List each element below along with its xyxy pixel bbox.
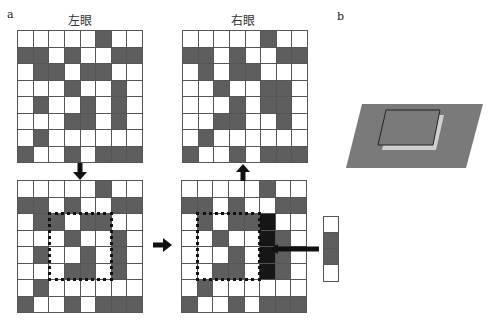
grid-cell [127,147,143,164]
grid-cell [198,214,214,231]
grid-cell [112,114,128,131]
grid-cell [34,214,50,231]
grid-cell [246,130,262,147]
grid-cell [182,198,198,215]
grid-cell [199,130,215,147]
grid-cell [261,147,277,164]
grid-cell [96,231,112,248]
grid-cell [198,247,214,264]
grid-cell [34,147,50,164]
grid-cell [213,247,229,264]
grid-cell [112,231,128,248]
grid-cell [199,114,215,131]
grid-cell [34,81,50,98]
grid-cell [112,297,128,314]
grid-cell [96,247,112,264]
grid-cell [292,48,308,65]
grid-cell [292,31,308,48]
grid-cell [81,280,97,297]
grid-cell [261,31,277,48]
grid-cell [127,231,143,248]
grid-cell [96,31,112,48]
grid-cell [260,198,276,215]
grid-cell [246,48,262,65]
grid-cell [199,97,215,114]
grid-cell [34,97,50,114]
grid-cell [261,114,277,131]
grid-cell [261,64,277,81]
grid-cell [182,264,198,281]
grid-cell [245,181,261,198]
grid-cell [182,181,198,198]
grid-cell [96,280,112,297]
grid-cell [96,147,112,164]
grid-cell [198,181,214,198]
grid-cell [34,130,50,147]
grid-cell [291,264,307,281]
strip-cell [324,217,338,233]
grid-cell [276,264,292,281]
grid-cell [276,198,292,215]
grid-cell [230,147,246,164]
grid-cell [49,31,65,48]
grid-cell [199,64,215,81]
grid-cell [182,280,198,297]
grid-cell [261,48,277,65]
grid-cell [260,181,276,198]
grid-cell [183,31,199,48]
grid-cell [261,97,277,114]
grid-cell [81,214,97,231]
grid-cell [183,114,199,131]
grid-cell [49,198,65,215]
grid-cell [81,97,97,114]
grid-cell [291,280,307,297]
grid-cell [245,231,261,248]
grid-cell [198,280,214,297]
grid-cell [260,214,276,231]
grid-cell [81,64,97,81]
grid-cell [18,97,34,114]
grid-cell [112,198,128,215]
grid-cell [230,97,246,114]
grid-cell [127,31,143,48]
grid-cell [96,114,112,131]
grid-cell [49,264,65,281]
grid-cell [18,280,34,297]
grid-cell [18,247,34,264]
grid-cell [198,264,214,281]
grid-cell [229,247,245,264]
grid-cell [229,297,245,314]
grid-cell [291,297,307,314]
grid-cell [65,130,81,147]
grid-cell [213,198,229,215]
grid-cell [198,198,214,215]
grid-cell [96,97,112,114]
grid-cell [49,297,65,314]
grid-cell [213,214,229,231]
grid-cell [49,64,65,81]
grid-cell [65,198,81,215]
grid-cell [34,64,50,81]
grid-cell [245,247,261,264]
grid-cell [246,97,262,114]
grid-cell [292,97,308,114]
grid-cell [65,114,81,131]
grid-cell [96,81,112,98]
grid-cell [18,264,34,281]
grid-cell [112,147,128,164]
grid-cell [18,214,34,231]
grid-cell [81,31,97,48]
grid-cell [49,147,65,164]
grid-cell [230,31,246,48]
grid-cell [65,181,81,198]
grid-cell [49,81,65,98]
grid-cell [18,81,34,98]
grid-cell [229,280,245,297]
grid-cell [65,297,81,314]
grid-cell [198,231,214,248]
grid-cell [229,198,245,215]
grid-cell [291,198,307,215]
grid-cell [230,81,246,98]
grid-cell [96,264,112,281]
grid-cell [18,114,34,131]
